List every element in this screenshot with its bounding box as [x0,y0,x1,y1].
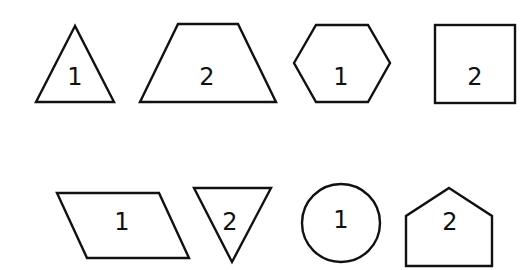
hexagon-label: 1 [333,63,348,91]
square-label: 2 [467,63,482,91]
pentagon-label: 2 [442,208,457,236]
triangle-label: 1 [67,63,82,91]
parallelogram-label: 1 [114,208,129,236]
pentagon-shape: 2 [406,188,492,266]
shapes-diagram: 1 2 1 2 1 2 1 2 [0,0,526,270]
parallelogram-shape: 1 [57,193,189,258]
circle-shape: 1 [302,184,380,262]
trapezoid-label: 2 [199,63,214,91]
trapezoid-shape: 2 [140,24,276,102]
circle-label: 1 [333,206,348,234]
hexagon-shape: 1 [294,25,390,102]
square-shape: 2 [435,25,515,103]
triangle-shape: 1 [36,26,114,102]
inverted-triangle-shape: 2 [194,188,271,262]
inverted-triangle-label: 2 [222,208,237,236]
